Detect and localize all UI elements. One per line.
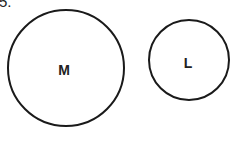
circle-m-label: M bbox=[58, 62, 70, 78]
circles-diagram bbox=[0, 0, 234, 148]
circle-l-label: L bbox=[184, 55, 193, 71]
